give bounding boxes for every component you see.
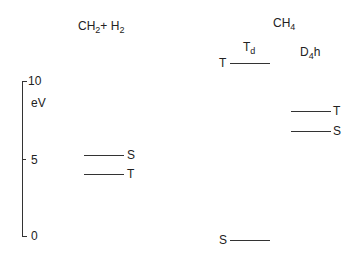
tick-label-5: 5 bbox=[31, 154, 38, 166]
header-td: Td bbox=[243, 41, 255, 54]
state-label-s: S bbox=[127, 149, 135, 161]
level-td-singlet bbox=[230, 240, 270, 241]
header-text: CH bbox=[273, 16, 290, 30]
header-ch4: CH4 bbox=[273, 17, 295, 30]
state-label-t: T bbox=[127, 168, 134, 180]
header-text: D bbox=[300, 45, 309, 59]
level-d4h-singlet bbox=[291, 131, 331, 132]
subscript: 2 bbox=[95, 25, 100, 35]
subscript: 4 bbox=[290, 22, 295, 32]
subscript: d bbox=[250, 46, 255, 56]
subscript: 2 bbox=[119, 25, 124, 35]
tick-label-10: 10 bbox=[28, 75, 41, 87]
level-td-triplet bbox=[230, 63, 270, 64]
state-label-t: T bbox=[219, 57, 226, 69]
state-label-s: S bbox=[219, 234, 227, 246]
header-text: h bbox=[314, 45, 321, 59]
state-label-t: T bbox=[333, 105, 340, 117]
axis-unit-label: eV bbox=[31, 97, 46, 109]
header-text: CH bbox=[78, 19, 95, 33]
level-ch2h2-singlet bbox=[84, 155, 124, 156]
tick-5 bbox=[22, 159, 26, 160]
subscript: 4 bbox=[309, 51, 314, 61]
level-ch2h2-triplet bbox=[84, 174, 124, 175]
header-text: + H bbox=[100, 19, 119, 33]
tick-0 bbox=[22, 236, 27, 237]
tick-10 bbox=[22, 81, 27, 82]
header-ch2-h2: CH2+ H2 bbox=[78, 20, 124, 33]
tick-label-0: 0 bbox=[31, 230, 38, 242]
header-d4h: D4h bbox=[300, 46, 320, 59]
level-d4h-triplet bbox=[291, 111, 331, 112]
state-label-s: S bbox=[333, 125, 341, 137]
